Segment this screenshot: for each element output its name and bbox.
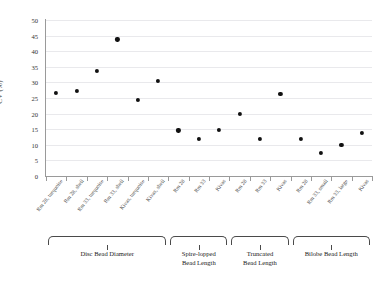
x-axis-tick <box>352 177 353 181</box>
x-axis-tick <box>168 177 169 181</box>
x-axis-category-label: Rm 33 <box>254 178 268 194</box>
y-axis-tick-label: 35 <box>31 63 38 70</box>
gridline <box>46 160 372 161</box>
x-axis-tick <box>87 177 88 181</box>
group-bracket <box>231 236 288 245</box>
data-point <box>319 151 323 155</box>
x-axis-category-label: Rm 33, large <box>327 178 350 205</box>
x-axis-category-label: Kivas <box>214 178 227 192</box>
x-axis-tick <box>107 177 108 181</box>
group-bracket-label: Truncated Bead Length <box>243 250 277 267</box>
x-axis-tick <box>229 177 230 181</box>
group-bracket-label: Bilobe Bead Length <box>305 250 358 259</box>
x-axis-tick <box>66 177 67 181</box>
gridline <box>46 129 372 130</box>
group-bracket-label: Disc Bead Diameter <box>80 250 133 259</box>
x-axis-category-label: Rm 28 <box>233 178 247 194</box>
data-point <box>360 131 364 135</box>
data-point <box>299 137 303 141</box>
x-axis-category-label: Rm 28, turquoise <box>35 178 64 212</box>
x-axis-category-label: Rm 33 <box>193 178 207 194</box>
x-axis-tick <box>128 177 129 181</box>
x-axis-category-label: Rm 33, small <box>306 178 329 205</box>
gridline <box>46 67 372 68</box>
data-point <box>115 37 119 41</box>
x-axis-category-label: Kivas <box>275 178 288 192</box>
y-axis-tick-label: 45 <box>31 32 38 39</box>
data-point <box>95 68 99 72</box>
group-bracket-label: Spire-lopped Bead Length <box>182 250 216 267</box>
gridline <box>46 51 372 52</box>
y-axis-tick-label: 30 <box>31 79 38 86</box>
y-axis-tick-label: 10 <box>31 141 38 148</box>
gridline <box>46 114 372 115</box>
x-axis-tick <box>270 177 271 181</box>
gridline <box>46 20 372 21</box>
data-point <box>217 128 221 132</box>
y-axis-tick-label: 20 <box>31 110 38 117</box>
plot-area <box>46 20 372 176</box>
x-axis-tick <box>189 177 190 181</box>
y-axis-tick-label: 25 <box>31 95 38 102</box>
y-axis-tick-label: 15 <box>31 126 38 133</box>
scatter-chart: 05101520253035404550 CV (%) Rm 28, turqu… <box>0 0 388 285</box>
x-axis-tick <box>291 177 292 181</box>
x-axis-tick <box>250 177 251 181</box>
y-axis-tick-label: 50 <box>31 17 38 24</box>
x-axis-category-label: Rm 28 <box>172 178 186 194</box>
data-point <box>54 91 58 95</box>
x-axis-category-label: Rm 28 <box>294 178 308 194</box>
x-axis-tick <box>148 177 149 181</box>
data-point <box>237 112 241 116</box>
group-bracket <box>170 236 227 245</box>
x-axis-tick <box>372 177 373 181</box>
data-point <box>176 128 180 132</box>
data-point <box>339 143 343 147</box>
gridline <box>46 36 372 37</box>
y-axis-tick-label: 5 <box>35 157 38 164</box>
x-axis-tick <box>331 177 332 181</box>
x-axis-category-label: Rm 33, shell <box>103 178 125 204</box>
data-point <box>197 137 201 141</box>
x-axis-category-labels: Rm 28, turquoiseRm 28, shellRm 33, turqu… <box>0 178 388 236</box>
gridline <box>46 98 372 99</box>
group-bracket <box>293 236 371 245</box>
y-axis-tick-label: 40 <box>31 48 38 55</box>
x-axis-tick <box>311 177 312 181</box>
group-brackets: Disc Bead DiameterSpire-lopped Bead Leng… <box>0 236 388 285</box>
y-axis-title: CV (%) <box>0 80 4 104</box>
data-point <box>278 92 282 96</box>
data-point <box>136 98 140 102</box>
group-bracket <box>48 236 166 245</box>
data-point <box>74 89 78 93</box>
gridline <box>46 145 372 146</box>
x-axis-category-label: Kivas, shell <box>145 178 166 203</box>
data-point <box>258 137 262 141</box>
x-axis-tick <box>46 177 47 181</box>
gridline <box>46 82 372 83</box>
x-axis-category-label: Kivas <box>357 178 370 192</box>
x-axis-tick <box>209 177 210 181</box>
y-axis-line <box>45 19 46 177</box>
